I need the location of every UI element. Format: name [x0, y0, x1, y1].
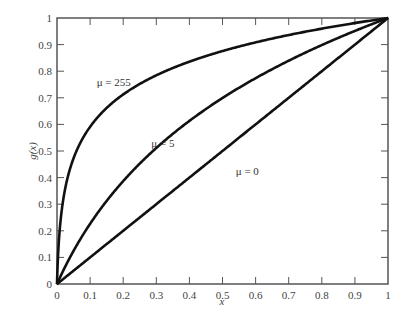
y-tick-label: 0.8	[38, 65, 52, 77]
curve-label: μ = 0	[236, 165, 260, 177]
y-tick-label: 0.7	[38, 92, 52, 104]
x-tick-label: 0.9	[348, 289, 362, 301]
x-tick-label: 0.1	[83, 289, 97, 301]
curve-label: μ = 255	[97, 76, 132, 88]
y-tick-label: 0.9	[38, 39, 52, 51]
x-tick-label: 0.3	[149, 289, 163, 301]
x-tick-label: 0	[54, 289, 60, 301]
y-tick-label: 0.3	[38, 198, 52, 210]
x-axis-label: x	[219, 295, 225, 307]
x-tick-label: 0.8	[315, 289, 329, 301]
y-tick-label: 0.5	[38, 145, 52, 157]
curves	[57, 18, 388, 284]
x-tick-label: 1	[385, 289, 391, 301]
y-axis-label: g(x)	[26, 142, 39, 160]
y-tick-label: 0.6	[38, 118, 52, 130]
y-tick-label: 0	[47, 278, 53, 290]
curve-label: μ = 5	[151, 137, 175, 149]
y-tick-label: 0.1	[38, 251, 52, 263]
x-tick-label: 0.4	[183, 289, 197, 301]
y-tick-label: 0.4	[38, 172, 52, 184]
y-tick-label: 1	[47, 12, 53, 24]
y-tick-label: 0.2	[38, 225, 52, 237]
curve-line	[57, 18, 388, 284]
x-tick-label: 0.7	[282, 289, 296, 301]
x-tick-label: 0.2	[116, 289, 130, 301]
mu-law-chart: 00.10.20.30.40.50.60.70.80.9100.10.20.30…	[0, 0, 408, 325]
x-tick-label: 0.6	[249, 289, 263, 301]
